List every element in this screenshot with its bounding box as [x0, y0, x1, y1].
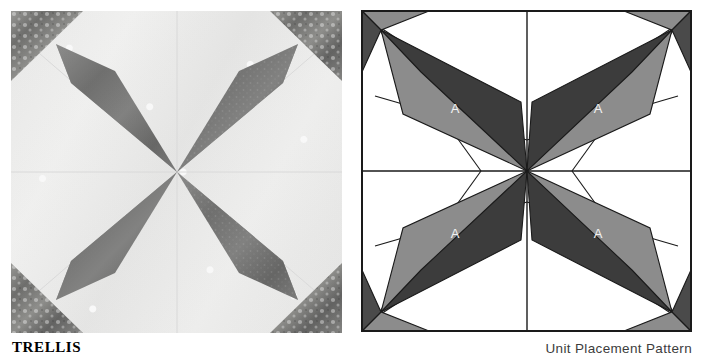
pattern-diagram: A A A	[361, 10, 692, 332]
block-photograph-panel	[11, 11, 342, 333]
unit-label-top-right: A	[594, 101, 603, 116]
photo-shading	[11, 11, 342, 333]
unit-label-top-left: A	[451, 101, 460, 116]
photo-frame	[11, 11, 342, 333]
unit-label-bottom-left: A	[451, 226, 460, 241]
unit-label-bottom-right: A	[594, 226, 603, 241]
pattern-caption-label: Unit Placement Pattern	[545, 341, 692, 356]
unit-placement-pattern-panel: A A A	[361, 10, 692, 332]
photo-shapes	[11, 11, 342, 333]
block-name-label: TRELLIS	[12, 339, 81, 356]
